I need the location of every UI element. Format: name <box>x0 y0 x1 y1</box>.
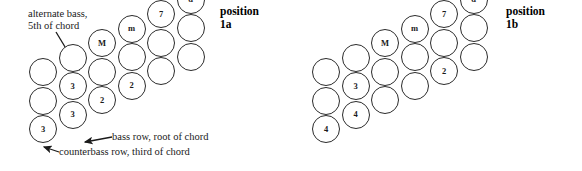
bass-button[interactable] <box>430 29 458 57</box>
position-title-line2: 1b <box>506 18 545 31</box>
bass-button-label: 7 <box>442 10 446 19</box>
annotation-arrow-layer <box>0 0 582 171</box>
bass-button-label: 2 <box>442 67 446 76</box>
bass-button[interactable] <box>460 14 488 42</box>
bass-button[interactable] <box>401 72 429 100</box>
bass-button-label: 4 <box>324 125 328 134</box>
bass-button[interactable]: 4 <box>312 115 340 143</box>
bass-button-label: d <box>471 0 476 4</box>
bass-button[interactable] <box>371 58 399 86</box>
bass-button-label: 3 <box>353 82 357 91</box>
bass-button[interactable] <box>312 87 340 115</box>
position-title-position-1b: position1b <box>506 5 545 31</box>
bass-button-diagram-position-1b: 434Mm72dposition1b <box>0 0 582 171</box>
bass-button[interactable] <box>371 86 399 114</box>
bass-button[interactable] <box>460 43 488 71</box>
bass-button-label: 4 <box>353 110 357 119</box>
bass-button[interactable] <box>342 44 370 72</box>
bass-button-label: m <box>411 24 418 33</box>
bass-button[interactable]: 4 <box>342 101 370 129</box>
bass-button[interactable] <box>401 43 429 71</box>
bass-button[interactable]: 2 <box>430 57 458 85</box>
bass-button[interactable]: 3 <box>342 72 370 100</box>
bass-button[interactable]: 7 <box>430 0 458 28</box>
bass-button[interactable]: m <box>401 15 429 43</box>
position-title-line1: position <box>506 5 545 18</box>
bass-button[interactable]: M <box>371 29 399 57</box>
diagram-canvas: 333M2m27dalternate bass,5th of chordbass… <box>0 0 582 171</box>
bass-button[interactable] <box>312 58 340 86</box>
bass-button-label: M <box>381 39 389 48</box>
